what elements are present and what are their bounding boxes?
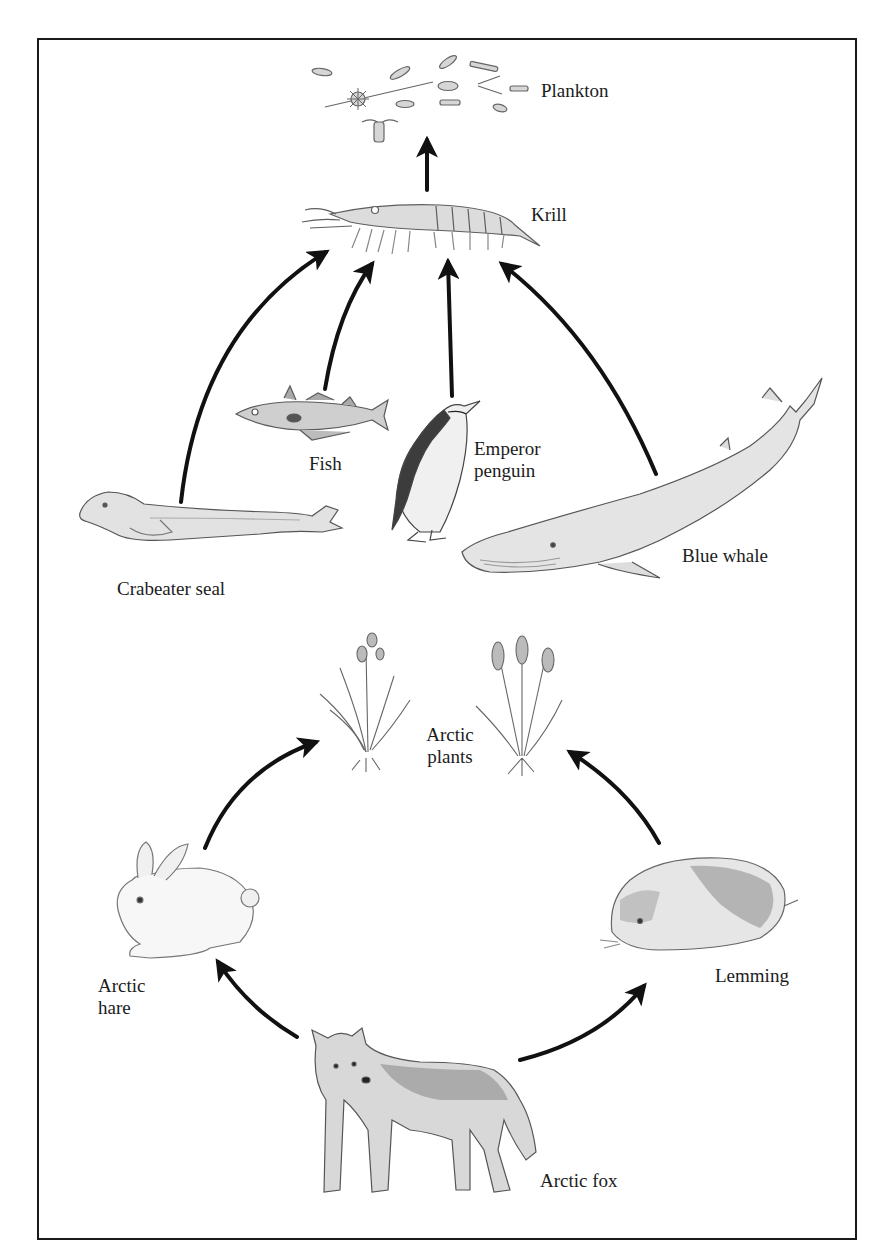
label-lemming: Lemming bbox=[715, 965, 789, 987]
fish-illustration bbox=[236, 386, 388, 440]
crabeater-seal-illustration bbox=[80, 492, 342, 540]
krill-illustration bbox=[302, 205, 540, 254]
arrow-fish-to-krill bbox=[325, 264, 372, 389]
arrow-fox-to-lemming bbox=[520, 986, 644, 1060]
label-plankton: Plankton bbox=[541, 80, 609, 102]
food-web-illustration bbox=[0, 0, 892, 1256]
arrow-seal-to-krill bbox=[181, 252, 326, 502]
label-emperor-penguin-line1: Emperor bbox=[474, 438, 540, 460]
arctic-fox-illustration bbox=[312, 1028, 536, 1192]
label-blue-whale: Blue whale bbox=[682, 545, 768, 567]
label-arctic-hare-line1: Arctic bbox=[98, 975, 145, 997]
arrow-penguin-to-krill bbox=[448, 262, 452, 396]
plankton-illustration bbox=[312, 53, 528, 142]
plant-right bbox=[476, 636, 562, 776]
plant-left bbox=[320, 633, 410, 772]
label-arctic-plants-line1: Arctic bbox=[420, 724, 480, 746]
label-arctic-fox: Arctic fox bbox=[540, 1170, 618, 1192]
label-crabeater-seal: Crabeater seal bbox=[117, 578, 225, 600]
label-emperor-penguin-line2: penguin bbox=[474, 460, 540, 482]
label-emperor-penguin: Emperor penguin bbox=[474, 438, 540, 482]
label-arctic-hare: Arctic hare bbox=[98, 975, 145, 1019]
label-krill: Krill bbox=[531, 204, 567, 226]
label-arctic-hare-line2: hare bbox=[98, 997, 145, 1019]
label-arctic-plants-line2: plants bbox=[420, 746, 480, 768]
arrow-hare-to-plants bbox=[205, 742, 316, 848]
lemming-illustration bbox=[600, 858, 798, 950]
label-fish: Fish bbox=[309, 453, 342, 475]
emperor-penguin-illustration bbox=[392, 401, 480, 542]
arctic-hare-illustration bbox=[117, 842, 259, 958]
arrow-lemming-to-plants bbox=[570, 752, 659, 843]
label-arctic-plants: Arctic plants bbox=[420, 724, 480, 768]
arrow-fox-to-hare bbox=[218, 962, 297, 1037]
arctic-arrows bbox=[205, 742, 659, 1060]
